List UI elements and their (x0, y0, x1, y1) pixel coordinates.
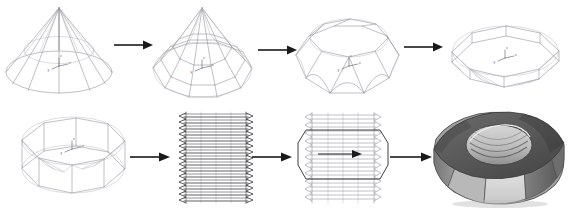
axis-label-x: x (515, 53, 517, 57)
arrow-4 (126, 105, 176, 210)
axis-label-y: y (48, 68, 50, 72)
sequence-row-top: Cone wireframe (0, 0, 570, 105)
axis-label-z: z (203, 56, 205, 60)
axis-label-x: x (69, 61, 71, 65)
step-2-faceted-cone: Faceted cone (145, 0, 260, 105)
axis-label-y: y (61, 151, 63, 155)
boolean-threaded-cylinder (305, 113, 381, 203)
arrow-3 (398, 0, 448, 105)
step-3-truncated-cone: Truncated cone (292, 0, 404, 105)
axis-label-y: y (494, 60, 496, 64)
axis-label-y: y (191, 70, 193, 74)
step-5-thickened-ring: Thickened hex ring (8, 105, 138, 210)
cad-modeling-sequence-figure: Cone wireframe (0, 0, 570, 210)
thickened-ring-geometry (22, 117, 125, 193)
axis-label-y: y (338, 68, 340, 72)
truncated-cone-geometry (296, 19, 399, 93)
axis-label-x: x (82, 144, 84, 148)
axis-label-z: z (350, 54, 352, 58)
axis-gizmo-step-4: z y x (494, 46, 518, 64)
axis-label-z: z (506, 46, 508, 50)
rendered-hex-nut-body (434, 112, 564, 208)
cone-wireframe-geometry (6, 8, 112, 93)
faceted-cone-geometry (153, 8, 252, 97)
step-1-cone-wireframe: Cone wireframe (0, 0, 120, 105)
sequence-row-bottom: Thickened hex ring (0, 105, 570, 210)
axis-label-x: x (212, 63, 214, 67)
threaded-cylinder-geometry (179, 112, 253, 203)
axis-label-z: z (73, 137, 75, 141)
step-8-rendered-hex-nut: Rendered hex nut (428, 105, 570, 210)
flattened-disc-geometry (452, 26, 559, 87)
nut-contact-shadow (452, 200, 548, 208)
axis-label-x: x (359, 61, 361, 65)
step-4-flattened-disc: Flattened disc (442, 0, 568, 105)
axis-label-z: z (60, 54, 62, 58)
axis-gizmo-step-3: z y x (338, 54, 362, 72)
thread-profile-left (179, 113, 186, 203)
step-7-boolean-intersection: Boolean intersection (288, 105, 398, 210)
